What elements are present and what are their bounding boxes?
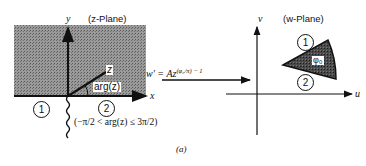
branch-cut-line [67, 96, 70, 138]
z-region-1-marker: 1 [33, 101, 50, 118]
branch-condition: (−π/2 < arg(z) ≤ 3π/2) [74, 118, 157, 128]
mapping-formula-base: w′ = Az [146, 68, 176, 79]
z-plane-y-label: y [66, 14, 70, 24]
z-region-2-marker: 2 [98, 100, 115, 117]
z-plane-x-label: x [150, 91, 154, 101]
w-plane-u-label: u [355, 89, 360, 99]
wedge-angle-label: φ₀ [312, 56, 324, 65]
w-plane-v-label: v [258, 14, 262, 24]
mapping-formula: w′ = Az(φ₀/π) − 1 [146, 68, 203, 79]
z-plane-title: (z-Plane) [88, 14, 127, 24]
w-region-2-marker: 2 [297, 74, 314, 91]
z-plane-shaded-region [14, 25, 146, 96]
w-plane-title: (w-Plane) [283, 14, 324, 24]
mapping-formula-exponent: (φ₀/π) − 1 [176, 67, 202, 74]
z-point-label: z [106, 65, 113, 75]
w-region-1-marker: 1 [297, 34, 314, 51]
figure-caption: (a) [176, 145, 187, 154]
arg-label: arg(z) [93, 82, 121, 92]
